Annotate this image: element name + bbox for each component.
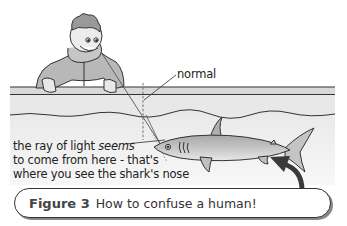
figure-number: Figure 3 <box>29 196 90 211</box>
figure-caption: Figure 3How to confuse a human! <box>29 196 257 211</box>
ray-annotation-line-2: to come from here - that's <box>13 153 189 167</box>
ray-annotation-line-3: where you see the shark's nose <box>13 167 189 181</box>
figure-caption-text: How to confuse a human! <box>96 196 257 211</box>
ray-annotation: the ray of light seems to come from here… <box>13 139 189 181</box>
ray-annotation-emphasis: seems <box>98 139 134 153</box>
figure-caption-box: Figure 3How to confuse a human! <box>14 188 331 218</box>
boy-figure <box>36 14 124 93</box>
ray-annotation-line-1: the ray of light seems <box>13 139 189 153</box>
normal-label: normal <box>177 67 216 81</box>
ray-annotation-prefix: the ray of light <box>13 139 98 153</box>
